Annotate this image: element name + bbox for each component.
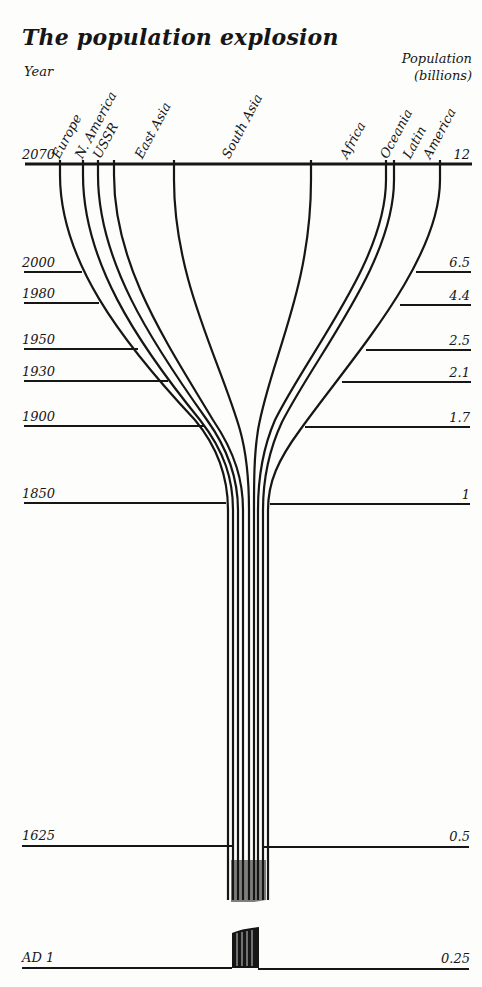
year-label-1950: 1950 xyxy=(22,332,55,347)
pop-label-2-5: 2.5 xyxy=(449,333,470,348)
pop-label-0-25: 0.25 xyxy=(441,951,470,966)
year-label-1900: 1900 xyxy=(22,409,55,424)
pop-label-2-1: 2.1 xyxy=(449,365,470,380)
year-label-1625: 1625 xyxy=(22,828,55,843)
year-label-1980: 1980 xyxy=(22,286,55,301)
pop-label-1-7: 1.7 xyxy=(449,410,470,425)
pop-label-6-5: 6.5 xyxy=(449,255,470,270)
pop-label-1: 1 xyxy=(462,487,470,502)
year-label-2000: 2000 xyxy=(22,255,55,270)
year-label-ad1: AD 1 xyxy=(22,950,54,965)
pop-label-4-4: 4.4 xyxy=(449,288,470,303)
year-label-1850: 1850 xyxy=(22,486,55,501)
pop-label-0-5: 0.5 xyxy=(449,829,470,844)
year-label-1930: 1930 xyxy=(22,364,55,379)
pop-label-12: 12 xyxy=(453,147,470,162)
